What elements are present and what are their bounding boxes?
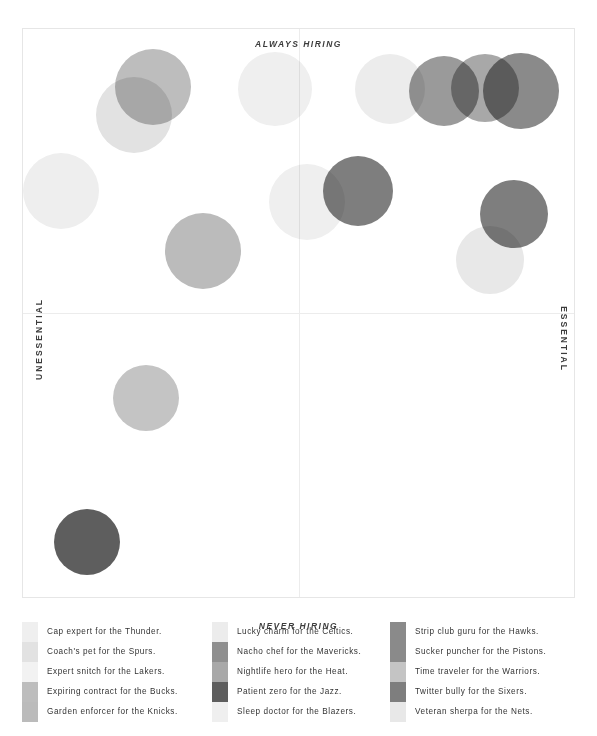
- bubble-point: [165, 213, 241, 289]
- bubble-point: [483, 53, 559, 129]
- legend-swatch: [22, 682, 38, 702]
- legend-label: Time traveler for the Warriors.: [406, 662, 540, 682]
- legend-item[interactable]: Strip club guru for the Hawks.: [390, 622, 575, 642]
- legend-item[interactable]: Patient zero for the Jazz.: [212, 682, 390, 702]
- bubble-chart-page: ALWAYS HIRING NEVER HIRING UNESSENTIAL E…: [0, 0, 597, 736]
- bubble-point: [238, 52, 312, 126]
- legend-swatch: [22, 662, 38, 682]
- legend-column: Lucky charm for the Celtics.Nacho chef f…: [212, 622, 390, 728]
- legend-item[interactable]: Twitter bully for the Sixers.: [390, 682, 575, 702]
- legend-label: Patient zero for the Jazz.: [228, 682, 342, 702]
- legend-swatch: [390, 662, 406, 682]
- legend-label: Nightlife hero for the Heat.: [228, 662, 348, 682]
- legend-item[interactable]: Coach's pet for the Spurs.: [22, 642, 212, 662]
- legend: Cap expert for the Thunder.Coach's pet f…: [22, 622, 575, 728]
- plot-canvas: [23, 29, 574, 597]
- legend-swatch: [22, 642, 38, 662]
- legend-item[interactable]: Sleep doctor for the Blazers.: [212, 702, 390, 722]
- bubble-point: [54, 509, 120, 575]
- legend-item[interactable]: Expiring contract for the Bucks.: [22, 682, 212, 702]
- axis-label-left: UNESSENTIAL: [34, 298, 44, 380]
- legend-item[interactable]: Expert snitch for the Lakers.: [22, 662, 212, 682]
- legend-label: Garden enforcer for the Knicks.: [38, 702, 178, 722]
- legend-label: Cap expert for the Thunder.: [38, 622, 162, 642]
- legend-swatch: [212, 622, 228, 642]
- axis-label-top: ALWAYS HIRING: [23, 39, 574, 49]
- legend-swatch: [390, 702, 406, 722]
- legend-swatch: [390, 682, 406, 702]
- bubble-point: [115, 49, 191, 125]
- legend-item[interactable]: Time traveler for the Warriors.: [390, 662, 575, 682]
- legend-swatch: [212, 702, 228, 722]
- legend-label: Sleep doctor for the Blazers.: [228, 702, 356, 722]
- bubble-point: [456, 226, 524, 294]
- legend-label: Expert snitch for the Lakers.: [38, 662, 165, 682]
- legend-item[interactable]: Nightlife hero for the Heat.: [212, 662, 390, 682]
- legend-label: Strip club guru for the Hawks.: [406, 622, 539, 642]
- legend-swatch: [390, 622, 406, 642]
- bubble-point: [23, 153, 99, 229]
- bubble-point: [113, 365, 179, 431]
- legend-item[interactable]: Cap expert for the Thunder.: [22, 622, 212, 642]
- legend-column: Strip club guru for the Hawks.Sucker pun…: [390, 622, 575, 728]
- legend-item[interactable]: Veteran sherpa for the Nets.: [390, 702, 575, 722]
- legend-item[interactable]: Garden enforcer for the Knicks.: [22, 702, 212, 722]
- legend-swatch: [22, 622, 38, 642]
- legend-swatch: [212, 662, 228, 682]
- legend-label: Veteran sherpa for the Nets.: [406, 702, 533, 722]
- legend-item[interactable]: Nacho chef for the Mavericks.: [212, 642, 390, 662]
- plot-area: ALWAYS HIRING NEVER HIRING UNESSENTIAL E…: [22, 28, 575, 598]
- legend-column: Cap expert for the Thunder.Coach's pet f…: [22, 622, 212, 728]
- legend-label: Expiring contract for the Bucks.: [38, 682, 178, 702]
- legend-item[interactable]: Lucky charm for the Celtics.: [212, 622, 390, 642]
- legend-item[interactable]: Sucker puncher for the Pistons.: [390, 642, 575, 662]
- legend-swatch: [212, 682, 228, 702]
- horizontal-axis-line: [23, 313, 574, 314]
- legend-label: Nacho chef for the Mavericks.: [228, 642, 361, 662]
- legend-swatch: [390, 642, 406, 662]
- legend-label: Twitter bully for the Sixers.: [406, 682, 527, 702]
- legend-label: Sucker puncher for the Pistons.: [406, 642, 546, 662]
- legend-swatch: [212, 642, 228, 662]
- axis-label-right: ESSENTIAL: [559, 306, 569, 372]
- legend-label: Coach's pet for the Spurs.: [38, 642, 156, 662]
- legend-label: Lucky charm for the Celtics.: [228, 622, 353, 642]
- legend-swatch: [22, 702, 38, 722]
- bubble-point: [323, 156, 393, 226]
